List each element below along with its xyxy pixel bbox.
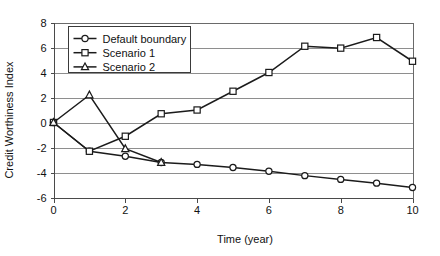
y-tick-label-6: 6 xyxy=(40,42,46,54)
data-point-circle-6 xyxy=(266,168,272,174)
data-point-square-4 xyxy=(194,107,200,113)
data-point-square-8 xyxy=(338,45,344,51)
legend-marker-circle xyxy=(82,35,88,41)
x-tick-label-2: 2 xyxy=(122,204,128,216)
y-axis-title: Credit Worthiness Index xyxy=(3,61,15,179)
legend-marker-square xyxy=(82,50,88,56)
credit-worthiness-line-chart: 86420-2-4-6 0246810 Default boundaryScen… xyxy=(0,0,440,256)
data-point-circle-5 xyxy=(230,164,236,170)
legend-label: Default boundary xyxy=(103,33,187,45)
y-tick-label-2: 2 xyxy=(40,92,46,104)
data-point-square-2 xyxy=(122,133,128,139)
y-tick-label-8: 8 xyxy=(40,17,46,29)
data-point-square-3 xyxy=(158,111,164,117)
chart-container: 86420-2-4-6 0246810 Default boundaryScen… xyxy=(0,0,440,256)
y-tick-label-0: 0 xyxy=(40,117,46,129)
y-tick-label--6: -6 xyxy=(37,192,47,204)
data-point-square-7 xyxy=(302,43,308,49)
data-point-circle-7 xyxy=(302,173,308,179)
x-tick-label-10: 10 xyxy=(406,204,418,216)
y-tick-label-4: 4 xyxy=(40,67,46,79)
data-point-square-6 xyxy=(266,69,272,75)
legend-label: Scenario 2 xyxy=(103,61,156,73)
data-point-circle-10 xyxy=(409,184,415,190)
x-tick-label-4: 4 xyxy=(194,204,200,216)
chart-legend: Default boundaryScenario 1Scenario 2 xyxy=(69,27,191,73)
data-point-circle-8 xyxy=(338,176,344,182)
data-point-square-10 xyxy=(409,58,415,64)
data-point-square-1 xyxy=(86,148,92,154)
x-tick-label-6: 6 xyxy=(266,204,272,216)
data-point-circle-4 xyxy=(194,161,200,167)
x-axis-title: Time (year) xyxy=(217,233,273,245)
data-point-circle-9 xyxy=(374,180,380,186)
data-point-square-5 xyxy=(230,88,236,94)
x-tick-label-0: 0 xyxy=(50,204,56,216)
y-tick-label--4: -4 xyxy=(37,167,47,179)
legend-label: Scenario 1 xyxy=(103,47,156,59)
data-point-square-9 xyxy=(374,34,380,40)
data-point-circle-2 xyxy=(122,153,128,159)
y-tick-label--2: -2 xyxy=(37,142,47,154)
x-tick-label-8: 8 xyxy=(338,204,344,216)
